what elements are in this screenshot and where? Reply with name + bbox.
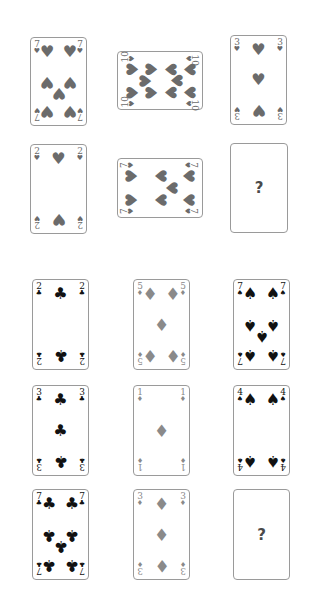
spades-pip-icon: ♠ [243,347,257,363]
corner-index: 7♠ [279,282,287,297]
hearts-pip-icon: ♥ [180,85,196,99]
card-face: 4♠4♠4♠4♠♠♠♠♠ [233,385,290,476]
hearts-icon: ♥ [183,161,190,169]
hearts-pip-icon: ♥ [180,193,196,207]
corner-index: 3♥ [233,38,241,53]
hearts-pip-icon: ♥ [251,102,265,118]
hearts-icon: ♥ [276,46,284,53]
hearts-pip-icon: ♥ [51,211,65,227]
hearts-pip-icon: ♥ [51,151,65,167]
corner-index: 3♦ [179,560,187,575]
corner-index: 3♥ [233,105,241,120]
corner-rank: 7 [190,161,198,169]
clubs-icon: ♣ [35,456,43,463]
card-3-of-clubs: 3♣3♣3♣3♣♣♣♣ [32,385,89,476]
clubs-icon: ♣ [35,350,43,357]
corner-rank: 2 [78,357,86,365]
hearts-icon: ♥ [183,207,190,215]
hearts-icon: ♥ [183,54,190,62]
hearts-pip-icon: ♥ [143,62,159,76]
clubs-icon: ♣ [78,500,86,507]
hearts-icon: ♥ [33,155,41,162]
corner-index: 3♣ [35,388,43,403]
card-7-of-spades: 7♠7♠7♠7♠♠♠♠♠♠♠♠ [233,279,290,370]
clubs-pip-icon: ♣ [65,496,79,512]
clubs-pip-icon: ♣ [53,286,67,302]
corner-index: 7♥ [183,161,198,169]
corner-index: 2♥ [76,147,84,162]
spades-icon: ♠ [279,350,287,357]
corner-index: 7♥ [76,40,84,55]
hearts-icon: ♥ [128,161,135,169]
hearts-icon: ♥ [233,46,241,53]
spades-icon: ♠ [279,396,287,403]
card-3-of-hearts: 3♥3♥3♥3♥♥♥♥ [230,35,287,125]
clubs-icon: ♣ [78,456,86,463]
diamonds-pip-icon: ♦ [154,496,169,513]
corner-index: 3♦ [136,492,144,507]
hearts-pip-icon: ♥ [63,44,77,60]
corner-index: 10♥ [183,54,198,62]
hearts-pip-icon: ♥ [40,44,54,60]
diamonds-icon: ♦ [136,396,144,403]
unknown-card: ? [230,143,288,233]
card-face: 7♠7♠7♠7♠♠♠♠♠♠♠♠ [233,279,290,370]
corner-index: 3♣ [78,388,86,403]
clubs-icon: ♣ [78,396,86,403]
card-face: 2♣2♣2♣2♣♣♣ [32,279,89,370]
hearts-pip-icon: ♥ [251,72,265,88]
hearts-pip-icon: ♥ [63,103,77,119]
diamonds-icon: ♦ [136,560,144,567]
corner-rank: 3 [276,112,284,120]
diamonds-icon: ♦ [179,396,187,403]
diamonds-icon: ♦ [136,456,144,463]
hearts-pip-icon: ♥ [143,85,159,99]
hearts-icon: ♥ [76,106,84,113]
spades-pip-icon: ♠ [266,347,280,363]
diamonds-pip-icon: ♦ [142,346,157,363]
diamonds-pip-icon: ♦ [154,316,169,333]
diamonds-pip-icon: ♦ [154,556,169,573]
card-7-of-clubs: 7♣7♣7♣7♣♣♣♣♣♣♣♣ [32,489,89,580]
hearts-pip-icon: ♥ [180,62,196,76]
card-10-of-hearts: 10♥10♥10♥10♥♥♥♥♥♥♥♥♥♥♥ [117,51,203,110]
diamonds-pip-icon: ♦ [154,526,169,543]
question-mark: ? [257,526,266,544]
clubs-pip-icon: ♣ [53,423,67,439]
hearts-pip-icon: ♥ [251,42,265,58]
corner-rank: 7 [279,357,287,365]
spades-pip-icon: ♠ [266,453,280,469]
hearts-pip-icon: ♥ [180,169,196,183]
question-mark: ? [255,179,264,197]
corner-index: 3♣ [78,456,86,471]
corner-index: 10♥ [120,54,135,62]
diamonds-pip-icon: ♦ [165,286,180,303]
clubs-icon: ♣ [35,290,43,297]
clubs-icon: ♣ [35,396,43,403]
unknown-card: ? [233,489,290,580]
corner-index: 10♥ [183,99,198,107]
card-5-of-diamonds: 5♦5♦5♦5♦♦♦♦♦♦ [133,279,190,370]
hearts-icon: ♥ [76,155,84,162]
corner-index: 2♣ [35,350,43,365]
clubs-pip-icon: ♣ [53,392,67,408]
clubs-icon: ♣ [78,560,86,567]
corner-rank: 2 [35,357,43,365]
hearts-icon: ♥ [33,214,41,221]
corner-index: 1♦ [179,388,187,403]
corner-index: 2♥ [33,147,41,162]
card-face: 7♥7♥7♥7♥♥♥♥♥♥♥♥ [30,37,87,126]
hearts-icon: ♥ [76,214,84,221]
hearts-icon: ♥ [233,105,241,112]
corner-rank: 4 [279,463,287,471]
corner-rank: 3 [233,112,241,120]
corner-index: 2♣ [78,350,86,365]
corner-index: 1♦ [136,388,144,403]
corner-index: 2♣ [35,282,43,297]
clubs-pip-icon: ♣ [53,453,67,469]
card-face: 1♦1♦1♦1♦♦ [133,385,190,476]
clubs-icon: ♣ [78,290,86,297]
spades-icon: ♠ [279,456,287,463]
corner-index: 7♥ [76,106,84,121]
corner-rank: 3 [136,567,144,575]
